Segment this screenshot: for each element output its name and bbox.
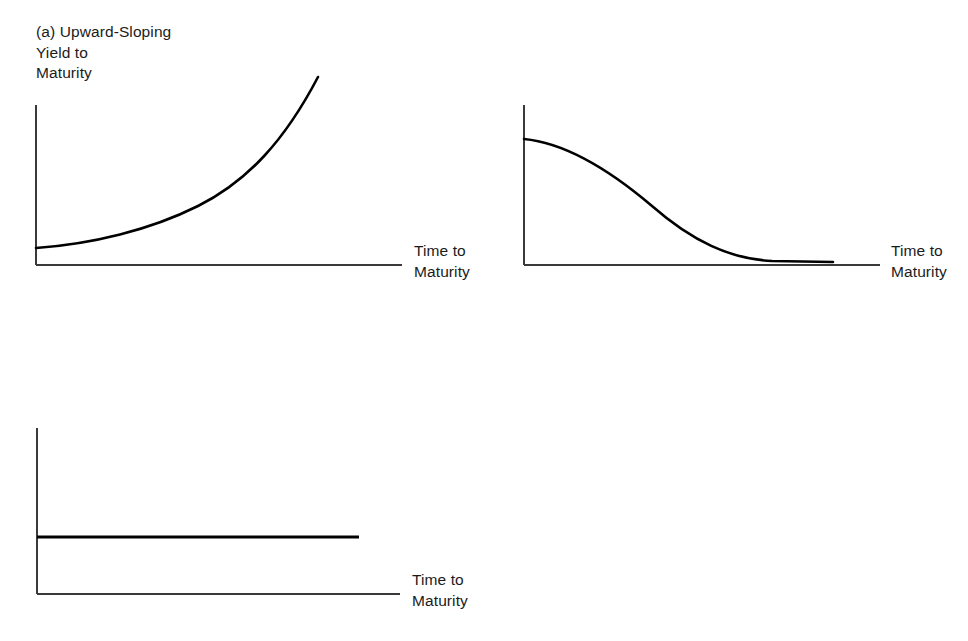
panel-c-plot xyxy=(0,0,968,641)
panel-c-x-axis-label: Time to Maturity xyxy=(412,570,468,611)
yield-curve-shapes-figure: (a) Upward-Sloping Yield to Maturity Tim… xyxy=(0,0,968,641)
